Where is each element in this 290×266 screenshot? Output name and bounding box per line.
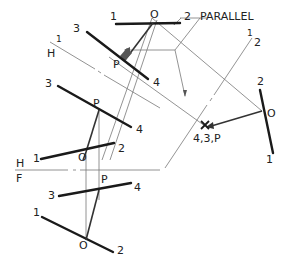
- label-2-aux2: 2: [257, 75, 264, 88]
- label-p-horizontal: P: [93, 97, 100, 110]
- label-1-horizontal: 1: [33, 152, 40, 165]
- aux-view-2: 2 O 1 4,3,P: [193, 75, 276, 166]
- label-1-top: 1: [110, 10, 117, 23]
- label-p-aux1: P: [113, 58, 120, 71]
- line-3-4-front: 3 P 4: [48, 173, 141, 202]
- label-3-horizontal: 3: [45, 77, 52, 90]
- label-3-front: 3: [48, 189, 55, 202]
- descriptive-geometry-diagram: H F 1 H 1 2 1 O: [0, 0, 290, 266]
- label-f: F: [16, 172, 22, 185]
- label-4-aux1: 4: [153, 76, 160, 89]
- label-2-front: 2: [117, 244, 124, 257]
- label-half-num: 1: [247, 28, 253, 38]
- label-o-top: O: [150, 8, 159, 21]
- label-4-horizontal: 4: [136, 123, 143, 136]
- arrow-head-down: [183, 90, 187, 97]
- label-h-lower: H: [16, 157, 24, 170]
- label-3-aux1: 3: [73, 22, 80, 35]
- point-view-x-mark: [201, 121, 209, 129]
- label-1-fold: 1: [56, 34, 62, 44]
- label-4-front: 4: [134, 181, 141, 194]
- line-1-2-horizontal: 1 O 2: [33, 142, 125, 165]
- label-2-top: 2: [184, 10, 191, 23]
- label-o-aux2: O: [267, 107, 276, 120]
- label-o-front: O: [79, 239, 88, 252]
- label-2-horizontal: 2: [118, 142, 125, 155]
- label-p-front: P: [101, 173, 108, 186]
- label-o-horizontal: O: [78, 151, 87, 164]
- label-1-front: 1: [33, 206, 40, 219]
- label-parallel: PARALLEL: [200, 10, 254, 23]
- label-1-aux2: 1: [266, 153, 273, 166]
- label-half-den: 2: [254, 36, 261, 49]
- perpendicular-op-top: [120, 23, 153, 61]
- label-point-view: 4,3,P: [193, 132, 221, 145]
- line-1-2-top: 1 O 2 PARALLEL: [110, 8, 254, 24]
- line-1-2-front: 1 O 2: [33, 190, 124, 257]
- label-h-upper: H: [47, 47, 55, 60]
